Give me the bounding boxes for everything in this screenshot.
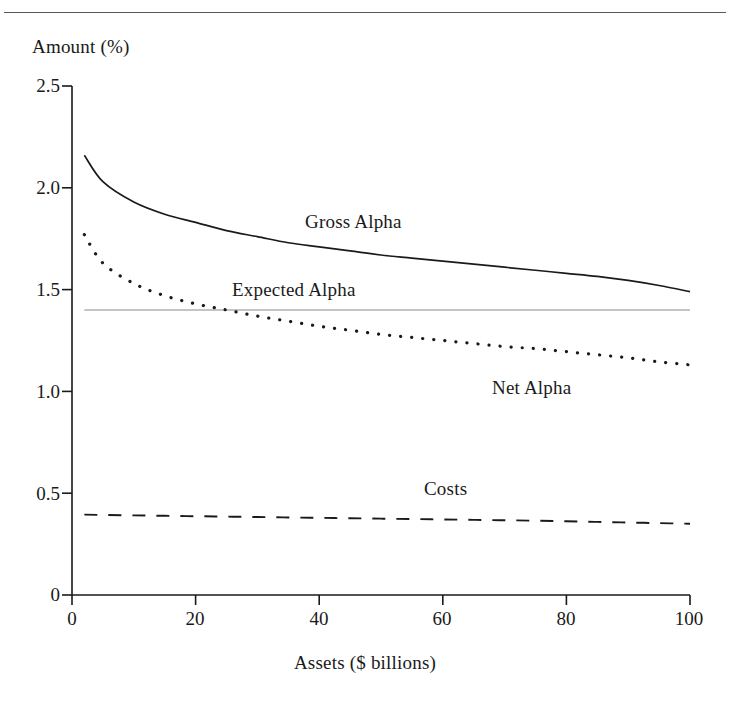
- series-group: [84, 155, 690, 524]
- x-axis-ticks: [72, 595, 690, 605]
- series-line-costs: [84, 515, 690, 524]
- series-line-gross-alpha: [84, 155, 690, 291]
- plot-area: [0, 0, 730, 705]
- y-axis-ticks: [62, 86, 72, 595]
- figure-root: Amount (%) 2.5 2.0 1.5 1.0 0.5 0 0 20 40…: [0, 0, 730, 705]
- series-line-net-alpha: [84, 235, 690, 365]
- axes-group: [62, 86, 690, 605]
